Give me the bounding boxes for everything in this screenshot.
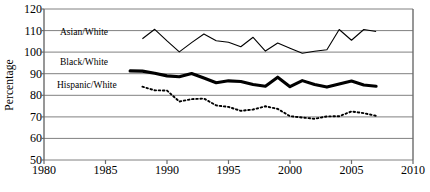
x-tick-1995: 1995 bbox=[206, 163, 252, 177]
x-tick-2000: 2000 bbox=[267, 163, 313, 177]
series-line-hispanic-white bbox=[142, 87, 376, 119]
x-tick-1985: 1985 bbox=[83, 163, 129, 177]
x-tick-2010: 2010 bbox=[390, 163, 430, 177]
series-line-asian-white bbox=[142, 29, 376, 53]
series-annotation-hispanic-white: Hispanic/White bbox=[57, 80, 117, 90]
x-tick-1990: 1990 bbox=[144, 163, 190, 177]
series-annotation-asian-white: Asian/White bbox=[60, 27, 108, 37]
x-tick-2005: 2005 bbox=[329, 163, 375, 177]
series-annotation-black-white: Black/White bbox=[60, 57, 108, 67]
x-tick-1980: 1980 bbox=[21, 163, 67, 177]
